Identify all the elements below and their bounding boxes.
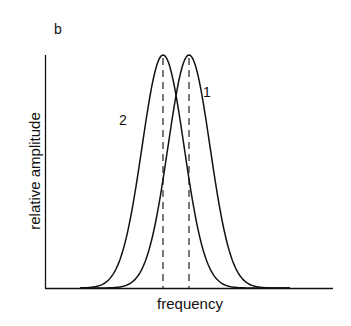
chart: b 1 2 frequency relative amplitude [0,0,351,326]
y-axis-label: relative amplitude [26,112,43,230]
curve-2-label: 2 [119,112,127,128]
x-axis-label: frequency [157,295,223,312]
curve-2 [80,55,290,288]
curve-1-label: 1 [203,84,211,100]
panel-label: b [54,21,62,37]
curve-1 [80,55,290,288]
